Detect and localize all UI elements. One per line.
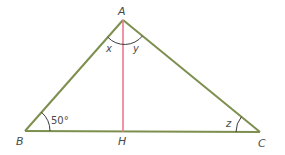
side-ac <box>123 20 260 132</box>
angle-label-z: z <box>225 118 232 129</box>
side-ab <box>25 20 123 131</box>
angle-label-y: y <box>132 43 140 54</box>
vertex-label-h: H <box>118 135 126 148</box>
side-bc <box>25 131 260 132</box>
vertex-label-a: A <box>117 5 126 18</box>
vertex-label-b: B <box>16 135 24 148</box>
angle-label-b: 50° <box>51 115 69 126</box>
angle-arc-c <box>236 117 241 132</box>
vertex-label-c: C <box>258 137 266 150</box>
angle-arc-b <box>42 112 51 131</box>
triangle-diagram: A B H C x y 50° z <box>0 0 285 155</box>
angle-label-x: x <box>105 43 112 54</box>
